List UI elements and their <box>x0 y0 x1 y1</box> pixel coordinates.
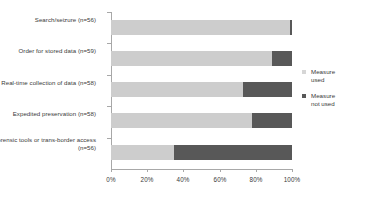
bar-row-order-for-stored-data <box>111 51 292 66</box>
bar-segment-measure-not-used <box>252 113 292 128</box>
bar-segment-measure-not-used <box>272 51 292 66</box>
x-axis-tick <box>147 169 148 172</box>
x-axis-tick <box>256 169 257 172</box>
bar-segment-measure-used <box>111 82 243 97</box>
bar-segment-measure-not-used <box>290 20 292 35</box>
bar-segment-measure-used <box>111 113 252 128</box>
legend-label-measure-used: Measure used <box>311 68 364 83</box>
legend-label-measure-not-used: Measure not used <box>311 92 364 107</box>
stacked-bar <box>111 113 292 128</box>
bar-row-search-seizure <box>111 20 292 35</box>
x-axis-label-100: 100% <box>277 176 307 183</box>
x-axis-label-40: 40% <box>168 176 198 183</box>
x-axis-label-0: 0% <box>96 176 126 183</box>
x-axis-tick <box>292 169 293 172</box>
bar-segment-measure-used <box>111 145 174 160</box>
bar-segment-measure-used <box>111 51 272 66</box>
bar-segment-measure-not-used <box>174 145 292 160</box>
x-axis-label-20: 20% <box>132 176 162 183</box>
x-axis-line <box>111 169 293 170</box>
bar-segment-measure-used <box>111 20 290 35</box>
bar-row-expedited-preservation <box>111 113 292 128</box>
bar-segment-measure-not-used <box>243 82 292 97</box>
dark-gray-swatch-icon <box>302 94 306 98</box>
bar-row-real-time-collection <box>111 82 292 97</box>
x-axis-label-80: 80% <box>241 176 271 183</box>
category-label-expedited-preservation: Expedited preservation (n=58) <box>0 110 96 118</box>
x-axis-tick <box>183 169 184 172</box>
legend-item-measure-not-used: Measure not used <box>302 92 364 107</box>
stacked-bar-chart: Search/seizure (n=56) Order for stored d… <box>0 0 367 206</box>
stacked-bar <box>111 145 292 160</box>
x-axis-label-60: 60% <box>205 176 235 183</box>
legend-item-measure-used: Measure used <box>302 68 364 83</box>
bar-row-remote-forensic-tools <box>111 145 292 160</box>
x-axis-tick <box>220 169 221 172</box>
x-axis-tick <box>111 169 112 172</box>
category-label-real-time-collection: Real-time collection of data (n=58) <box>0 79 96 87</box>
stacked-bar <box>111 20 292 35</box>
category-label-remote-forensic-tools: Remote forensic tools or trans-border ac… <box>0 136 96 151</box>
category-label-order-for-stored-data: Order for stored data (n=59) <box>0 47 96 55</box>
chart-legend: Measure used Measure not used <box>302 68 364 116</box>
stacked-bar <box>111 51 292 66</box>
category-label-search-seizure: Search/seizure (n=56) <box>0 16 96 24</box>
stacked-bar <box>111 82 292 97</box>
plot-area <box>111 12 292 168</box>
light-gray-swatch-icon <box>302 70 306 74</box>
